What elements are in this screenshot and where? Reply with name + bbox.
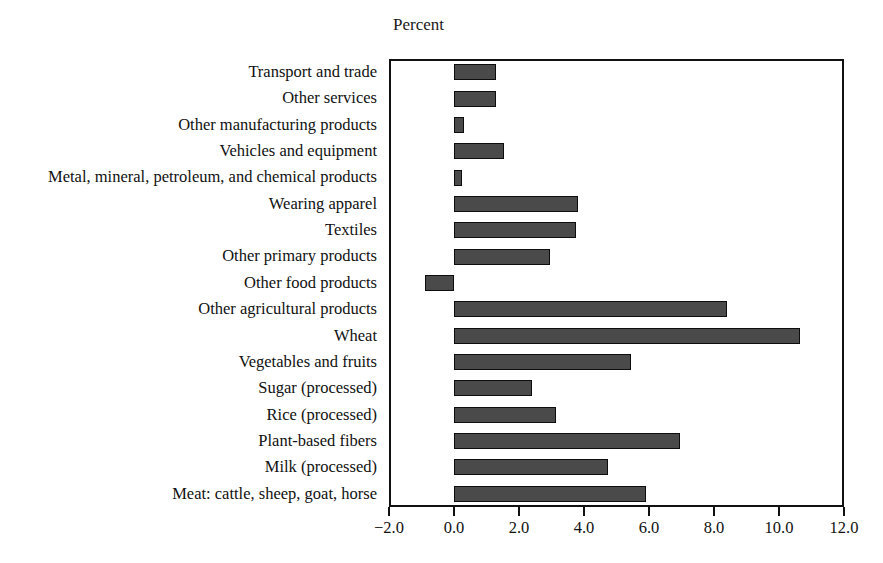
x-axis-tick [518,507,520,516]
category-label: Other food products [244,270,377,296]
x-axis-tick-label: 0.0 [444,518,465,538]
category-label: Sugar (processed) [258,375,377,401]
x-axis: −2.00.02.04.06.08.010.012.0 [389,507,844,557]
category-label: Other manufacturing products [178,112,377,138]
category-label: Wheat [334,323,377,349]
category-label: Transport and trade [248,59,377,85]
category-label: Plant-based fibers [258,428,377,454]
category-label: Wearing apparel [269,191,377,217]
x-axis-tick [778,507,780,516]
axis-title-percent: Percent [393,15,444,35]
x-axis-tick [453,507,455,516]
category-label: Meat: cattle, sheep, goat, horse [172,481,377,507]
x-axis-tick [388,507,390,516]
category-label: Metal, mineral, petroleum, and chemical … [48,164,377,190]
x-axis-tick-label: 2.0 [509,518,530,538]
x-axis-tick-label: 4.0 [574,518,595,538]
x-axis-tick [648,507,650,516]
x-axis-tick [843,507,845,516]
category-label: Milk (processed) [265,454,377,480]
category-label: Other agricultural products [198,296,377,322]
plot-frame [389,59,844,507]
category-label: Vegetables and fruits [239,349,377,375]
category-label-list: Transport and tradeOther servicesOther m… [0,59,383,507]
x-axis-tick-label: −2.0 [374,518,404,538]
category-label: Textiles [325,217,377,243]
category-label: Other primary products [222,243,377,269]
category-label: Other services [282,85,377,111]
category-label: Rice (processed) [267,402,377,428]
chart-figure: Percent Transport and tradeOther service… [0,0,883,563]
x-axis-tick [583,507,585,516]
x-axis-tick-label: 12.0 [830,518,859,538]
x-axis-tick [713,507,715,516]
x-axis-tick-label: 10.0 [765,518,794,538]
x-axis-tick-label: 6.0 [639,518,660,538]
x-axis-tick-label: 8.0 [704,518,725,538]
category-label: Vehicles and equipment [219,138,377,164]
